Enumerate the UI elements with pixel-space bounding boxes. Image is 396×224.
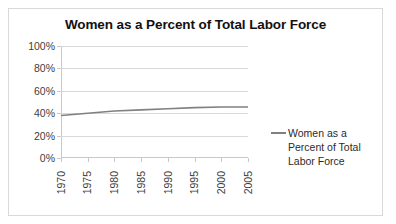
chart-legend: Women as a Percent of Total Labor Force [271, 126, 381, 169]
chart-title: Women as a Percent of Total Labor Force [9, 17, 382, 32]
x-tick-mark [248, 158, 249, 162]
y-tick-label: 60% [34, 85, 55, 97]
x-tick-label-text: 2000 [216, 171, 227, 194]
x-tick-label-text: 1975 [82, 171, 93, 194]
y-tick-label: 20% [34, 130, 55, 142]
chart-container: Women as a Percent of Total Labor Force … [8, 8, 383, 216]
x-tick-mark [221, 158, 222, 162]
x-tick-label-text: 1970 [56, 171, 67, 194]
x-tick-label-text: 1985 [136, 171, 147, 194]
x-tick-mark [168, 158, 169, 162]
y-tick-label: 40% [34, 107, 55, 119]
x-tick-label-text: 1980 [109, 171, 120, 194]
x-tick-mark [61, 158, 62, 162]
x-tick-label-text: 1995 [189, 171, 200, 194]
legend-item-label: Women as a Percent of Total Labor Force [288, 126, 380, 169]
y-tick-label: 80% [34, 62, 55, 74]
x-tick-label-text: 1990 [163, 171, 174, 194]
plot-area: 100%80%60%40%20%0% 197019751980198519901… [61, 46, 248, 158]
x-tick-mark [141, 158, 142, 162]
x-tick-mark [195, 158, 196, 162]
series-line-women-percent [61, 46, 248, 158]
legend-line-swatch-icon [271, 132, 286, 134]
x-tick-mark [88, 158, 89, 162]
x-tick-label-text: 2005 [243, 171, 254, 194]
y-tick-label: 0% [40, 152, 55, 164]
x-tick-mark [114, 158, 115, 162]
y-tick-label: 100% [28, 40, 55, 52]
